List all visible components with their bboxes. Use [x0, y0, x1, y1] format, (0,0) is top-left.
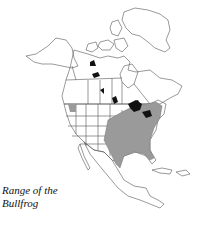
greenland: [122, 8, 170, 52]
caption-line-2: Bullfrog: [2, 197, 58, 210]
arctic-islands: [86, 20, 128, 52]
hudson-bay: [120, 64, 138, 88]
caption-line-1: Range of the: [2, 184, 58, 197]
map-caption: Range of the Bullfrog: [2, 184, 58, 210]
baja: [78, 144, 90, 170]
canadian-lakes: [90, 60, 140, 104]
range-west-patch: [68, 104, 76, 112]
alaska: [26, 38, 78, 68]
land-outlines: [26, 8, 190, 208]
caribbean: [152, 168, 190, 176]
